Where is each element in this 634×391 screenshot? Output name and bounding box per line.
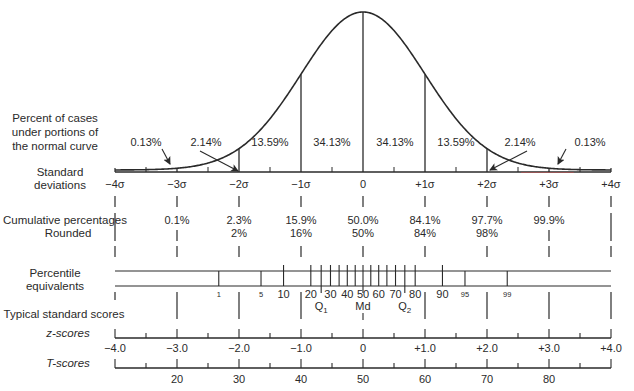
z-score-label: +3.0 (538, 342, 560, 354)
cumulative-percent: 15.9% (285, 214, 316, 226)
segment-percent-label: 34.13% (376, 136, 414, 148)
arrow-0.13-right (558, 149, 566, 164)
plot-area: 0.13%2.14%13.59%34.13%34.13%13.59%2.14%0… (104, 12, 622, 385)
sigma-label: +3σ (539, 178, 559, 190)
label-std-dev-2: deviations (34, 179, 86, 191)
cumulative-percent: 99.9% (533, 214, 564, 226)
rounded-percent: 50% (352, 227, 374, 239)
label-percent-cases-2: under portions of (12, 126, 99, 138)
t-score-label: 20 (171, 373, 183, 385)
sigma-label: −3σ (167, 178, 187, 190)
z-score-label: −2.0 (228, 342, 250, 354)
percentile-label: 90 (436, 288, 448, 300)
row-labels: Percent of cases under portions of the n… (3, 112, 127, 369)
z-score-label: −1.0 (290, 342, 312, 354)
rounded-percent: 2% (231, 227, 247, 239)
z-score-label: +1.0 (414, 342, 436, 354)
label-t: T-scores (46, 357, 90, 369)
label-rounded: Rounded (45, 227, 92, 239)
rounded-percent: 98% (476, 227, 498, 239)
z-score-label: +4.0 (600, 342, 622, 354)
percentile-label: 60 (373, 288, 385, 300)
rounded-percent: 16% (290, 227, 312, 239)
quartile-label: Md (355, 300, 370, 312)
segment-percent-label: 34.13% (313, 136, 351, 148)
normal-curve-diagram: Percent of cases under portions of the n… (0, 0, 634, 391)
percentile-label: 40 (341, 288, 353, 300)
label-percent-cases-1: Percent of cases (12, 112, 98, 124)
sigma-label: −2σ (229, 178, 249, 190)
quartile-label: Q2 (398, 300, 412, 315)
cumulative-percent: 84.1% (409, 214, 440, 226)
segment-percent-label: 2.14% (504, 136, 535, 148)
t-score-label: 60 (419, 373, 431, 385)
label-percent-cases-3: the normal curve (12, 140, 98, 152)
quartile-subscript: 1 (323, 306, 328, 315)
cumulative-percent: 0.1% (164, 214, 189, 226)
percentile-label: 5 (259, 290, 263, 299)
t-score-label: 70 (481, 373, 493, 385)
z-score-label: −3.0 (166, 342, 188, 354)
sigma-label: +1σ (415, 178, 435, 190)
sigma-label: −4σ (105, 178, 125, 190)
t-score-label: 80 (543, 373, 555, 385)
quartile-label: Q1 (315, 300, 329, 315)
label-typical: Typical standard scores (4, 308, 125, 320)
percentile-label: 99 (503, 290, 511, 299)
t-score-label: 30 (233, 373, 245, 385)
segment-percent-label: 0.13% (130, 136, 161, 148)
percentile-label: 10 (277, 288, 289, 300)
percentile-label: 95 (461, 290, 469, 299)
arrow-2.14-left (200, 151, 238, 171)
percentile-label: 30 (324, 288, 336, 300)
cumulative-percent: 2.3% (226, 214, 251, 226)
quartile-subscript: 2 (407, 306, 412, 315)
sigma-label: +4σ (601, 178, 621, 190)
segment-percent-label: 0.13% (574, 136, 605, 148)
percentile-label: 80 (409, 288, 421, 300)
segment-percent-label: 13.59% (251, 136, 289, 148)
sigma-label: +2σ (477, 178, 497, 190)
rounded-percent: 84% (414, 227, 436, 239)
label-percentile-1: Percentile (29, 267, 80, 279)
label-std-dev-1: Standard (37, 166, 84, 178)
arrow-0.13-left (162, 149, 170, 164)
z-score-label: −4.0 (104, 342, 126, 354)
percentile-label: 20 (305, 288, 317, 300)
label-cumulative: Cumulative percentages (3, 214, 127, 226)
cumulative-percent: 97.7% (471, 214, 502, 226)
segment-percent-label: 13.59% (437, 136, 475, 148)
label-z: z-scores (45, 327, 90, 339)
segment-percent-label: 2.14% (190, 136, 221, 148)
sigma-label: −1σ (291, 178, 311, 190)
label-percentile-2: equivalents (26, 280, 84, 292)
sigma-label: 0 (360, 178, 366, 190)
z-score-label: 0 (360, 342, 366, 354)
percentile-label: 70 (389, 288, 401, 300)
percentile-label: 1 (217, 290, 221, 299)
cumulative-percent: 50.0% (347, 214, 378, 226)
t-score-label: 50 (357, 373, 369, 385)
t-score-label: 40 (295, 373, 307, 385)
z-score-label: +2.0 (476, 342, 498, 354)
